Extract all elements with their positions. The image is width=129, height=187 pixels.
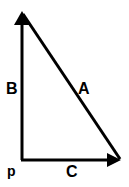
label-p: p: [7, 164, 16, 178]
label-a: A: [78, 81, 90, 97]
triangle-graphic: [0, 0, 129, 187]
vector-a-line: [23, 14, 120, 159]
label-c: C: [66, 164, 78, 180]
label-b: B: [6, 81, 18, 97]
vector-triangle-diagram: B A p C: [0, 0, 129, 187]
